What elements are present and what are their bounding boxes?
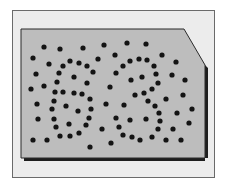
- dot: [149, 86, 154, 91]
- dot: [57, 133, 62, 138]
- dot: [95, 56, 100, 61]
- dot: [87, 144, 92, 149]
- dot: [60, 89, 65, 94]
- dot: [90, 69, 95, 74]
- dot: [174, 110, 179, 115]
- dot: [84, 63, 89, 68]
- dot: [143, 116, 148, 121]
- dot: [178, 137, 183, 142]
- dot: [60, 63, 65, 68]
- dot: [107, 84, 112, 89]
- dot: [143, 41, 148, 46]
- dot: [139, 74, 144, 79]
- dot: [108, 140, 113, 145]
- dot: [99, 126, 104, 131]
- dot: [51, 98, 56, 103]
- dot: [151, 63, 156, 68]
- dot: [136, 56, 141, 61]
- dot: [155, 80, 160, 85]
- dot: [67, 58, 72, 63]
- dot: [145, 98, 150, 103]
- dot: [113, 70, 118, 75]
- dot: [129, 134, 134, 139]
- dot: [56, 70, 61, 75]
- dot: [76, 60, 81, 65]
- dot: [182, 77, 187, 82]
- dot: [71, 74, 76, 79]
- dot: [75, 108, 80, 113]
- dot: [180, 92, 185, 97]
- dot: [76, 130, 81, 135]
- dot: [35, 116, 40, 121]
- dot: [141, 90, 146, 95]
- dot: [41, 44, 46, 49]
- dot: [121, 102, 126, 107]
- dot: [52, 89, 57, 94]
- dot: [120, 132, 125, 137]
- dot-pattern-card: [0, 0, 229, 187]
- dot: [28, 86, 33, 91]
- dot: [132, 92, 137, 97]
- dot: [189, 106, 194, 111]
- dot: [71, 90, 76, 95]
- dot: [120, 63, 125, 68]
- dot: [153, 71, 158, 76]
- dot: [83, 122, 88, 127]
- dot: [33, 71, 38, 76]
- dot: [137, 137, 142, 142]
- dot: [186, 120, 191, 125]
- dot: [44, 137, 49, 142]
- dot: [101, 42, 106, 47]
- dot: [124, 40, 129, 45]
- dot: [127, 117, 132, 122]
- dot: [103, 101, 108, 106]
- dot: [57, 46, 62, 51]
- dot: [79, 91, 84, 96]
- dot: [156, 110, 161, 115]
- dot: [144, 57, 149, 62]
- dot: [173, 59, 178, 64]
- dot: [169, 72, 174, 77]
- dot: [34, 101, 39, 106]
- dot: [163, 137, 168, 142]
- dot: [66, 121, 71, 126]
- dot: [49, 106, 54, 111]
- dot: [30, 137, 35, 142]
- dot: [87, 96, 92, 101]
- dot: [53, 124, 58, 129]
- dot: [54, 79, 59, 84]
- dot: [152, 103, 157, 108]
- dot: [163, 96, 168, 101]
- dot: [157, 118, 162, 123]
- dot: [30, 55, 35, 60]
- dot: [86, 115, 91, 120]
- dot: [113, 115, 118, 120]
- dot: [159, 52, 164, 57]
- dot: [127, 58, 132, 63]
- dot: [80, 45, 85, 50]
- dot: [149, 134, 154, 139]
- dot: [88, 106, 93, 111]
- dot: [63, 103, 68, 108]
- dot: [128, 77, 133, 82]
- dot: [41, 83, 46, 88]
- dot: [46, 61, 51, 66]
- dot: [112, 52, 117, 57]
- dot: [51, 116, 56, 121]
- dot: [170, 126, 175, 131]
- dot: [84, 80, 89, 85]
- dot: [155, 126, 160, 131]
- dot: [116, 124, 121, 129]
- dot: [67, 133, 72, 138]
